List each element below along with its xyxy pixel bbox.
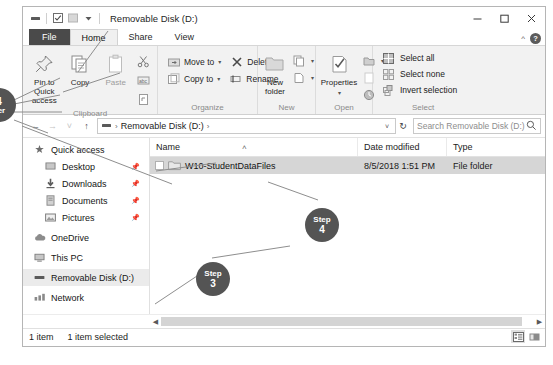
sidebar-item-this-pc[interactable]: This PC — [23, 249, 149, 266]
pin-icon[interactable]: 📌 — [131, 163, 140, 171]
move-to-icon — [166, 54, 181, 69]
new-item-button[interactable]: ▾ — [290, 53, 314, 68]
search-box[interactable]: Search Removable Disk (D:) — [413, 118, 541, 134]
collapse-ribbon-icon[interactable]: ^ — [521, 34, 525, 43]
pin-icon[interactable]: 📌 — [131, 180, 140, 188]
easy-access-button[interactable]: ▾ — [290, 70, 314, 85]
search-icon[interactable] — [526, 120, 537, 133]
move-to-button[interactable]: Move to ▾ — [163, 54, 224, 69]
invert-selection-button[interactable]: Invert selection — [381, 83, 457, 97]
pin-icon[interactable]: 📌 — [131, 197, 140, 205]
quick-access-star-icon — [33, 143, 46, 156]
row-checkbox[interactable] — [155, 161, 164, 170]
file-explorer-window: Removable Disk (D:) File Home Share View… — [22, 6, 546, 347]
new-item-caret-icon[interactable]: ▾ — [311, 57, 314, 64]
paste-icon — [104, 52, 128, 76]
pin-icon[interactable]: 📌 — [131, 214, 140, 222]
refresh-button[interactable]: ↻ — [396, 121, 410, 131]
column-header-name[interactable]: Name ˄ — [150, 138, 358, 156]
breadcrumb-separator-2[interactable]: › — [207, 122, 210, 131]
move-to-caret-icon[interactable]: ▾ — [218, 58, 221, 65]
sidebar-item-network[interactable]: Network — [23, 289, 149, 306]
sidebar-item-label: Documents — [62, 196, 108, 206]
breadcrumb-separator[interactable]: › — [115, 122, 118, 131]
svg-text:abc: abc — [139, 78, 148, 84]
scissors-icon[interactable] — [135, 53, 152, 70]
copy-path-icon[interactable]: abc — [135, 72, 152, 89]
tab-view[interactable]: View — [164, 29, 205, 45]
sidebar-item-removable-disk[interactable]: Removable Disk (D:) — [23, 269, 149, 286]
pin-to-quick-access-button[interactable]: Pin to Quick access — [28, 50, 61, 105]
callout-step-3: Step 3 — [196, 262, 230, 296]
tab-share[interactable]: Share — [118, 29, 164, 45]
address-input[interactable]: › Removable Disk (D:) › ˅ — [97, 118, 396, 134]
properties-button[interactable]: Properties ▾ — [321, 50, 357, 96]
new-folder-label: New folder — [263, 78, 287, 96]
ribbon-group-open: Properties ▾ ▾ — [316, 46, 373, 114]
ribbon-group-organize: Move to ▾ Delete ▾ — [158, 46, 258, 114]
close-button[interactable] — [518, 7, 545, 29]
help-icon[interactable]: ? — [530, 33, 541, 44]
hscroll-left-icon[interactable]: ◀ — [150, 318, 161, 326]
easy-access-caret-icon[interactable]: ▾ — [311, 74, 314, 81]
sidebar-item-desktop[interactable]: Desktop 📌 — [23, 158, 149, 175]
new-folder-button[interactable]: New folder — [263, 50, 287, 96]
sidebar-item-onedrive[interactable]: OneDrive — [23, 229, 149, 246]
search-input[interactable]: Search Removable Disk (D:) — [417, 121, 526, 131]
large-icons-view-button[interactable] — [527, 330, 541, 343]
qat-divider-2 — [99, 13, 100, 24]
address-dropdown-icon[interactable]: ˅ — [382, 123, 392, 130]
select-none-icon — [381, 67, 396, 82]
hscroll-right-icon[interactable]: ▶ — [534, 318, 545, 326]
callout-step-4: Step 4 — [305, 208, 339, 242]
title-bar: Removable Disk (D:) — [23, 7, 545, 29]
file-date-modified: 8/5/2018 1:51 PM — [358, 161, 447, 171]
column-header-type[interactable]: Type — [447, 138, 517, 156]
tab-home[interactable]: Home — [70, 29, 118, 45]
callout-subtext: ner — [0, 107, 5, 115]
properties-icon — [327, 52, 351, 76]
copy-to-caret-icon[interactable]: ▾ — [217, 75, 220, 82]
onedrive-cloud-icon — [33, 231, 46, 244]
downloads-icon — [44, 177, 57, 190]
breadcrumb-removable-disk[interactable]: Removable Disk (D:) — [121, 121, 204, 131]
select-none-button[interactable]: Select none — [381, 67, 445, 81]
callout-number: 4 — [319, 224, 325, 235]
this-pc-icon — [33, 251, 46, 264]
select-all-button[interactable]: Select all — [381, 51, 435, 65]
paste-shortcut-icon[interactable] — [135, 91, 152, 108]
tab-file[interactable]: File — [29, 29, 70, 45]
details-view-button[interactable] — [511, 330, 525, 343]
file-name-cell[interactable]: W10-StudentDataFiles — [150, 160, 358, 171]
delete-x-icon — [229, 54, 244, 69]
sidebar-item-downloads[interactable]: Downloads 📌 — [23, 175, 149, 192]
column-header-date-modified[interactable]: Date modified — [358, 138, 447, 156]
new-item-icon — [290, 52, 307, 69]
removable-disk-icon[interactable] — [29, 12, 41, 24]
removable-disk-icon — [33, 271, 46, 284]
sidebar-item-quick-access[interactable]: Quick access — [23, 141, 149, 158]
sidebar-item-documents[interactable]: Documents 📌 — [23, 192, 149, 209]
properties-caret-icon[interactable]: ▾ — [338, 89, 341, 96]
sidebar-item-pictures[interactable]: Pictures 📌 — [23, 209, 149, 226]
select-all-icon — [381, 51, 396, 66]
copy-to-icon — [166, 71, 181, 86]
copy-button[interactable]: Copy — [64, 50, 97, 87]
customize-qat-caret-icon[interactable] — [82, 12, 94, 24]
minimize-button[interactable] — [464, 7, 491, 29]
horizontal-scrollbar-thumb[interactable] — [161, 317, 522, 326]
properties-icon[interactable] — [52, 12, 64, 24]
callout-step-label: Step — [313, 216, 330, 224]
file-type: File folder — [447, 161, 517, 171]
ribbon-group-new: New folder ▾ ▾ — [258, 46, 316, 114]
copy-to-button[interactable]: Copy to ▾ — [163, 71, 223, 86]
table-row[interactable]: W10-StudentDataFiles 8/5/2018 1:51 PM Fi… — [150, 157, 545, 174]
ribbon-group-select: Select all Select none Invert selection … — [373, 46, 473, 114]
paste-button[interactable]: Paste — [99, 50, 132, 87]
window-title: Removable Disk (D:) — [110, 13, 198, 24]
select-all-label: Select all — [400, 53, 435, 63]
ribbon-tabs: File Home Share View ^ ? — [23, 29, 545, 45]
new-folder-icon[interactable] — [67, 12, 79, 24]
maximize-button[interactable] — [491, 7, 518, 29]
invert-selection-icon — [381, 83, 396, 98]
